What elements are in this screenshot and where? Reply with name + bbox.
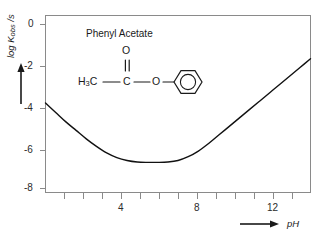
plot-frame: [46, 16, 311, 193]
methyl-h: H: [78, 75, 86, 87]
structure-bonds: [103, 60, 174, 82]
y-tick-label-minus8: -8: [24, 183, 33, 193]
y-tick-label-minus4: -4: [24, 103, 33, 113]
chart-svg: [0, 0, 328, 243]
y-axis-title-subscript: obs: [8, 24, 17, 36]
x-tick-label-8: 8: [194, 203, 200, 213]
y-tick-label-minus6: -6: [24, 145, 33, 155]
y-axis-title-suffix: /s: [5, 14, 16, 24]
x-axis-title: pH: [287, 219, 299, 229]
x-axis-ticks: [65, 193, 293, 200]
y-axis-title-prefix: log K: [5, 36, 16, 58]
methyl-group-label: H3C: [78, 76, 97, 88]
x-tick-label-12: 12: [267, 203, 278, 213]
carbonyl-oxygen-label: O: [122, 45, 130, 56]
y-tick-label-minus2: -2: [24, 61, 33, 71]
structure-title: Phenyl Acetate: [86, 29, 153, 39]
x-tick-label-4: 4: [118, 203, 124, 213]
figure-container: 0 -2 -4 -6 -8 4 8 12 pH log Kobs /s Phen…: [0, 0, 328, 243]
methyl-c: C: [90, 75, 98, 87]
y-tick-label-0: 0: [28, 19, 34, 29]
y-axis-title-wrap: log Kobs /s: [2, 8, 18, 70]
carbonyl-carbon-label: C: [123, 76, 131, 87]
x-axis-arrow: [240, 220, 279, 227]
ester-oxygen-label: O: [152, 76, 160, 87]
y-axis-title: log Kobs /s: [5, 7, 17, 65]
y-axis-ticks: [40, 25, 46, 189]
benzene-ring: [174, 71, 202, 94]
